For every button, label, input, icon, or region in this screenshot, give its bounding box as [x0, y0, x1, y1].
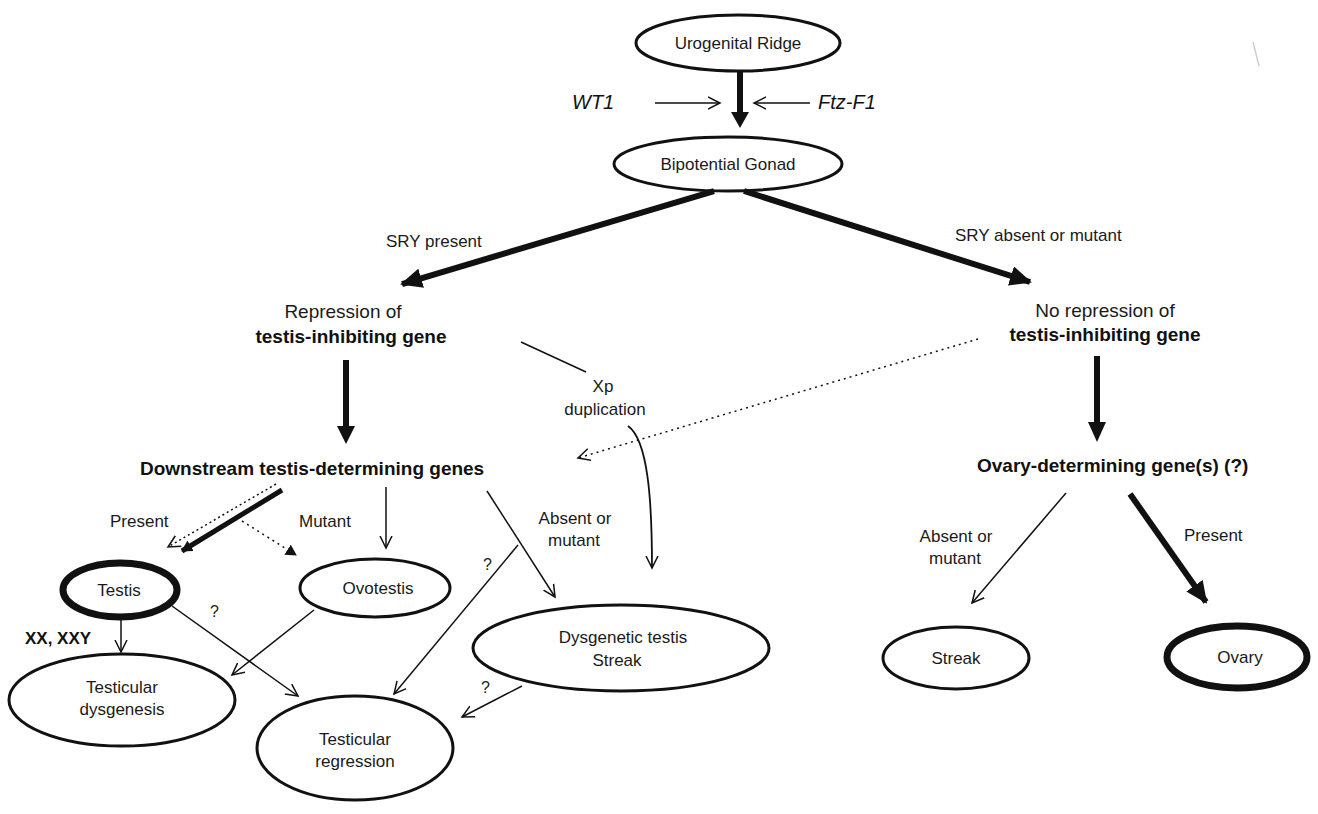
label-absent-mutant-mid-1: Absent or: [539, 509, 612, 528]
xp-line: [521, 342, 586, 372]
arrowhead-no-repression-down: [1088, 422, 1106, 442]
svg-text:No repression of: No repression of: [1035, 300, 1175, 321]
node-dysgenetic-testis-streak: Dysgenetic testis Streak: [473, 605, 769, 691]
node-testicular-dysgenesis: Testicular dysgenesis: [9, 654, 235, 746]
arrow-dysgenetic-to-regression: [462, 686, 522, 717]
arrow-absent-to-streak: [972, 493, 1066, 603]
label-absent-mutant-right-1: Absent or: [920, 527, 993, 546]
node-ovotestis: Ovotestis: [300, 559, 450, 617]
sex-determination-diagram: Urogenital Ridge WT1 Ftz-F1 Bipotential …: [0, 0, 1318, 814]
label-ftz-f1: Ftz-F1: [818, 91, 876, 113]
arrowhead-ridge-to-gonad: [731, 112, 749, 128]
svg-text:regression: regression: [315, 752, 394, 771]
svg-text:Streak: Streak: [931, 649, 981, 668]
svg-text:Testicular: Testicular: [86, 678, 158, 697]
arrow-absent-to-dysgenetic: [487, 491, 555, 597]
node-bipotential-gonad: Bipotential Gonad: [614, 137, 842, 191]
label-absent-mutant-mid-2: mutant: [548, 531, 600, 550]
svg-text:Urogenital Ridge: Urogenital Ridge: [675, 34, 802, 53]
node-testis: Testis: [63, 563, 177, 617]
svg-text:Bipotential Gonad: Bipotential Gonad: [660, 155, 795, 174]
svg-text:Ovotestis: Ovotestis: [343, 579, 414, 598]
label-wt1: WT1: [572, 91, 614, 113]
node-testicular-regression: Testicular regression: [257, 696, 453, 800]
svg-text:Testis: Testis: [97, 581, 140, 600]
label-question-dysgenetic: ?: [481, 679, 490, 696]
label-question-testis: ?: [210, 603, 219, 620]
svg-text:Repression of: Repression of: [284, 301, 402, 322]
label-duplication: duplication: [564, 400, 645, 419]
svg-text:Testicular: Testicular: [319, 730, 391, 749]
dotted-arrow-to-ovotestis: [242, 521, 296, 555]
arrow-present-to-ovary: [1130, 494, 1206, 602]
node-repression: Repression of testis-inhibiting gene: [255, 301, 446, 347]
node-ovary-determining-genes: Ovary-determining gene(s) (?): [977, 455, 1248, 476]
arrow-xp-to-dysgenetic: [628, 426, 652, 568]
svg-text:Streak: Streak: [592, 651, 642, 670]
label-mutant: Mutant: [299, 512, 351, 531]
label-sry-absent: SRY absent or mutant: [955, 226, 1122, 245]
svg-text:Ovary: Ovary: [1217, 648, 1263, 667]
label-absent-mutant-right-2: mutant: [929, 549, 981, 568]
svg-text:testis-inhibiting gene: testis-inhibiting gene: [1009, 324, 1200, 345]
node-streak: Streak: [883, 627, 1029, 689]
arrow-present-to-testis: [182, 490, 282, 551]
label-present-left: Present: [110, 512, 169, 531]
svg-text:testis-inhibiting gene: testis-inhibiting gene: [255, 326, 446, 347]
label-xp: Xp: [593, 377, 614, 396]
label-present-right: Present: [1184, 526, 1243, 545]
svg-text:dysgenesis: dysgenesis: [79, 700, 164, 719]
label-xx-xxy: XX, XXY: [25, 629, 92, 648]
svg-text:Dysgenetic testis: Dysgenetic testis: [559, 628, 688, 647]
arrow-ovotestis-to-dysgenesis: [232, 610, 314, 675]
label-sry-present: SRY present: [386, 232, 482, 251]
arrowhead-repression-down: [337, 426, 355, 444]
node-downstream-genes: Downstream testis-determining genes: [140, 458, 484, 479]
node-no-repression: No repression of testis-inhibiting gene: [1009, 300, 1200, 345]
node-ovary: Ovary: [1167, 626, 1307, 688]
dotted-arrow-no-repression-to-downstream: [578, 339, 978, 458]
scan-artifact-mark: [1253, 42, 1259, 66]
dotted-arrow-present-to-testis: [168, 484, 276, 547]
label-question-branch: ?: [483, 556, 492, 573]
node-urogenital-ridge: Urogenital Ridge: [636, 15, 840, 71]
